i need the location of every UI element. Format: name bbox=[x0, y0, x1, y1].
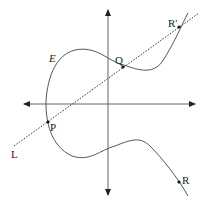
secant-line-L bbox=[14, 13, 199, 146]
label-R-prime: R' bbox=[168, 17, 177, 29]
elliptic-curve-diagram: E L P Q R' R bbox=[0, 0, 210, 208]
point-R bbox=[177, 180, 180, 183]
point-R-prime bbox=[177, 25, 180, 28]
label-Q: Q bbox=[115, 54, 123, 66]
curve-label-E: E bbox=[48, 52, 56, 64]
label-R: R bbox=[182, 174, 190, 186]
label-P: P bbox=[50, 121, 56, 133]
line-label-L: L bbox=[11, 148, 18, 160]
